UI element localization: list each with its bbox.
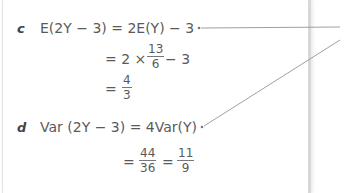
part-d-label: d — [17, 121, 26, 134]
part-d-line2-eq: = — [162, 155, 174, 169]
part-d-line1: Var (2Y − 3) = 4Var(Y) — [40, 120, 197, 134]
fraction-11-9: 11 9 — [177, 147, 194, 174]
fraction-13-6: 13 6 — [147, 43, 164, 70]
part-c-line2-suffix: − 3 — [165, 52, 190, 66]
part-d-line2-prefix: = — [123, 155, 135, 169]
part-c-line1: E(2Y − 3) = 2E(Y) − 3 — [40, 21, 194, 35]
fraction-4-3: 4 3 — [122, 74, 132, 101]
fraction-44-36: 44 36 — [139, 147, 156, 174]
part-c-line2-prefix: = 2 × — [105, 52, 146, 66]
part-c-label: c — [17, 22, 25, 35]
part-c-line3-prefix: = — [105, 82, 117, 96]
